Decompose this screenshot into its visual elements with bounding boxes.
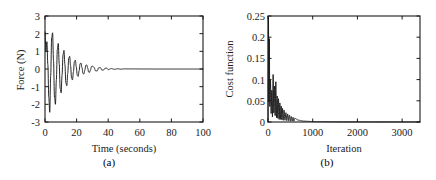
- ytick-label: 3: [35, 11, 40, 22]
- xtick-label: 2000: [347, 127, 368, 138]
- ytick-label: 0.05: [247, 96, 265, 107]
- xtick-label: 60: [135, 127, 146, 138]
- xtick-label: 3000: [392, 127, 413, 138]
- ytick-label: 0.25: [247, 11, 265, 22]
- chart-b-plot-frame: [268, 16, 420, 122]
- xtick-label: 20: [71, 127, 82, 138]
- chart-b-ticks: [268, 16, 420, 122]
- chart-b-ylabel-group: Cost function: [224, 40, 235, 98]
- ytick-label: 0.2: [252, 32, 265, 43]
- chart-a-ylabel: Force (N): [15, 49, 27, 91]
- xtick-label: 0: [265, 127, 270, 138]
- caption-b: (b): [218, 156, 436, 168]
- xtick-label: 80: [166, 127, 177, 138]
- ytick-label: 0.15: [247, 53, 265, 64]
- ytick-label: -3: [31, 117, 40, 128]
- chart-b-svg: Cost function 0.25 0.2 0.15 0.1 0.05 0 0…: [218, 0, 436, 156]
- xtick-label: 1000: [302, 127, 323, 138]
- ytick-label: 0: [260, 117, 265, 128]
- ytick-label: -1: [31, 82, 40, 93]
- chart-a-svg: Force (N) 3 2 1 0 -1 -2 -3 0 20 40 60 80…: [0, 0, 218, 156]
- xtick-label: 100: [195, 127, 211, 138]
- chart-a-xlabel: Time (seconds): [92, 143, 157, 155]
- panel-a: Force (N) 3 2 1 0 -1 -2 -3 0 20 40 60 80…: [0, 0, 218, 180]
- caption-a: (a): [0, 156, 218, 168]
- ytick-label: 0: [35, 64, 40, 75]
- chart-a-ylabel-group: Force (N): [15, 49, 27, 91]
- ytick-label: 2: [35, 29, 40, 40]
- chart-b-xtick-labels: 0 1000 2000 3000: [265, 127, 412, 138]
- chart-a-ytick-labels: 3 2 1 0 -1 -2 -3: [31, 11, 40, 128]
- xtick-label: 0: [42, 127, 47, 138]
- chart-a-dataline: [45, 32, 203, 112]
- chart-b-dataline: [268, 16, 420, 122]
- chart-b-ytick-labels: 0.25 0.2 0.15 0.1 0.05 0: [247, 11, 265, 128]
- chart-b-xlabel: Iteration: [326, 143, 362, 154]
- ytick-label: -2: [31, 99, 40, 110]
- figure-container: Force (N) 3 2 1 0 -1 -2 -3 0 20 40 60 80…: [0, 0, 436, 180]
- ytick-label: 1: [35, 46, 40, 57]
- xtick-label: 40: [103, 127, 114, 138]
- chart-b-ylabel: Cost function: [224, 40, 235, 98]
- ytick-label: 0.1: [252, 75, 265, 86]
- panel-b: Cost function 0.25 0.2 0.15 0.1 0.05 0 0…: [218, 0, 436, 180]
- chart-a-xtick-labels: 0 20 40 60 80 100: [42, 127, 211, 138]
